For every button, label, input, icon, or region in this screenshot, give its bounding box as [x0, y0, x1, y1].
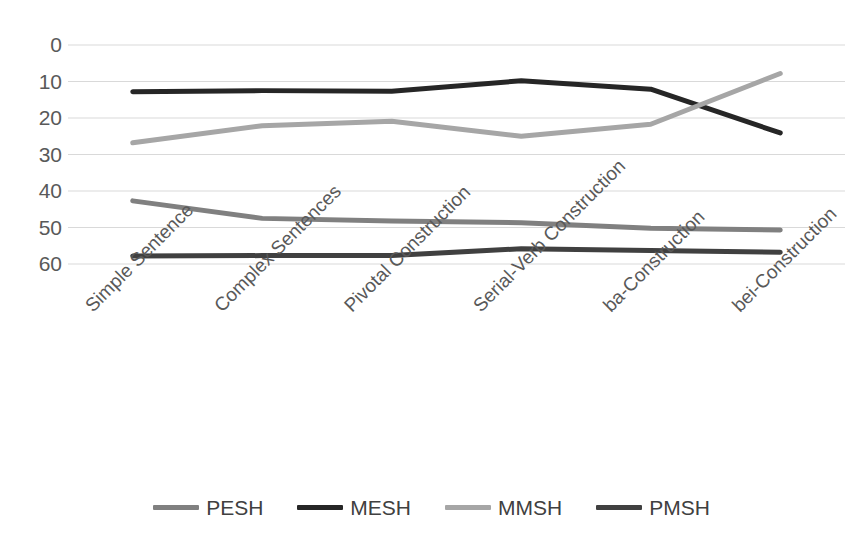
legend-swatch-icon [153, 505, 199, 510]
legend-label: PESH [206, 497, 263, 518]
legend-item-pmsh[interactable]: PMSH [596, 497, 710, 518]
x-axis-tick-label: ba-Construction [599, 207, 707, 315]
x-axis-tick-label: bei-Construction [729, 204, 840, 315]
legend-swatch-icon [445, 505, 491, 510]
legend-swatch-icon [297, 505, 343, 510]
chart-legend: PESHMESHMMSHPMSH [0, 487, 863, 527]
legend-label: MESH [350, 497, 411, 518]
legend-item-pesh[interactable]: PESH [153, 497, 263, 518]
line-chart: 6050403020100 Simple SentenceComplex Sen… [0, 0, 863, 549]
legend-swatch-icon [596, 505, 642, 510]
legend-item-mmsh[interactable]: MMSH [445, 497, 562, 518]
x-axis-tick-label: Simple Sentence [81, 200, 196, 315]
x-axis-tick-label: Serial-Verb Construction [470, 156, 629, 315]
legend-item-mesh[interactable]: MESH [297, 497, 411, 518]
x-axis-tick-labels: Simple SentenceComplex SentencesPivotal … [0, 0, 863, 460]
x-axis-tick-label: Complex Sentences [211, 181, 345, 315]
legend-label: MMSH [498, 497, 562, 518]
x-axis-tick-label: Pivotal Construction [340, 182, 473, 315]
legend-label: PMSH [649, 497, 710, 518]
